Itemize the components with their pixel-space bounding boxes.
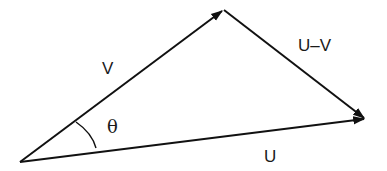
vector-triangle-diagram bbox=[0, 0, 387, 171]
vector-v-line bbox=[20, 11, 222, 162]
angle-theta-arc bbox=[76, 122, 96, 148]
vector-u-minus-v-line bbox=[224, 10, 364, 118]
label-u-minus-v: U–V bbox=[298, 37, 331, 54]
label-theta: θ bbox=[107, 118, 118, 136]
label-v: V bbox=[102, 60, 113, 77]
label-u: U bbox=[264, 148, 276, 165]
vector-u-line bbox=[20, 119, 364, 162]
